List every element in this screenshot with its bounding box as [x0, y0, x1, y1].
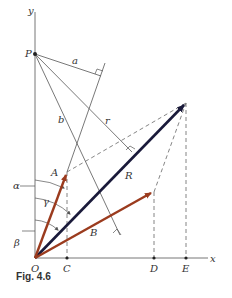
- label-alpha: α: [13, 180, 20, 191]
- point-D: [152, 256, 155, 259]
- label-gamma: γ: [43, 196, 49, 207]
- label-a: a: [72, 55, 78, 66]
- vector-diagram: y x P a b r R A B α γ β O C D E: [0, 0, 232, 298]
- label-B: B: [89, 227, 97, 238]
- line-r: [35, 54, 132, 152]
- line-A-extension: [67, 63, 105, 172]
- label-y: y: [27, 5, 34, 16]
- label-D: D: [149, 263, 158, 274]
- label-b: b: [58, 114, 64, 125]
- point-P: [33, 52, 37, 56]
- label-beta: β: [13, 237, 20, 248]
- figure-caption: Fig. 4.6: [16, 270, 51, 282]
- point-E: [184, 256, 187, 259]
- label-P: P: [24, 48, 32, 59]
- label-x: x: [210, 253, 216, 264]
- line-a: [35, 54, 101, 76]
- vector-R: [35, 105, 184, 258]
- label-r: r: [105, 115, 111, 126]
- label-R: R: [124, 170, 133, 181]
- vector-A: [35, 175, 66, 258]
- line-b: [35, 54, 120, 235]
- label-C: C: [63, 263, 71, 274]
- label-E: E: [181, 263, 190, 274]
- point-C: [65, 256, 68, 259]
- label-A: A: [50, 167, 58, 178]
